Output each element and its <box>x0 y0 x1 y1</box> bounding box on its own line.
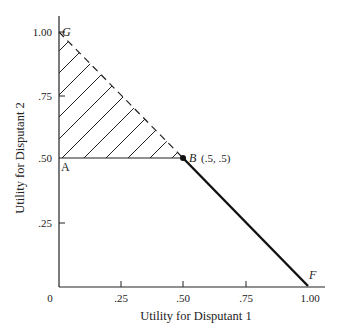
x-tick-100: 1.00 <box>300 292 320 304</box>
y-axis-label: Utility for Disputant 2 <box>13 102 27 213</box>
x-tick-0: 0 <box>47 292 53 304</box>
x-axis-label: Utility for Disputant 1 <box>140 309 251 323</box>
x-tick-25: .25 <box>114 292 128 304</box>
line-G-B-dashed <box>59 32 183 158</box>
label-B: B <box>189 151 197 165</box>
label-F: F <box>308 268 317 282</box>
line-B-F <box>183 158 308 286</box>
y-tick-50: .50 <box>38 152 52 164</box>
label-A: A <box>61 160 70 174</box>
y-tick-75: .75 <box>38 90 52 102</box>
x-tick-50: .50 <box>176 292 190 304</box>
point-B <box>180 155 186 161</box>
x-tick-75: .75 <box>239 292 253 304</box>
y-tick-25: .25 <box>38 217 52 229</box>
y-tick-100: 1.00 <box>33 26 53 38</box>
label-B-coords: (.5, .5) <box>201 152 231 165</box>
chart: 1.00 .75 .50 .25 0 .25 .50 .75 1.00 G A … <box>0 0 337 335</box>
label-G: G <box>62 25 71 39</box>
